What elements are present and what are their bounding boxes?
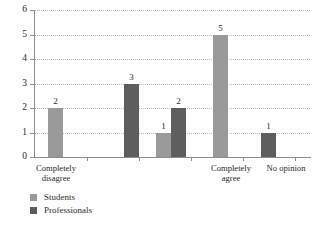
y-axis-line bbox=[34, 10, 35, 158]
legend-swatch-students-icon bbox=[30, 194, 37, 201]
bar-students-5: 5 bbox=[213, 35, 228, 158]
x-axis-label-completely-disagree: Completely disagree bbox=[18, 163, 94, 183]
x-axis-label-no-opinion: No opinion bbox=[258, 163, 314, 173]
gridline bbox=[34, 84, 310, 85]
y-axis-tick-label: 1 bbox=[22, 128, 27, 138]
legend-item-students: Students bbox=[30, 191, 92, 204]
gridline bbox=[34, 35, 310, 36]
bar-students-1: 1 bbox=[156, 133, 171, 158]
y-axis-tick-label: 4 bbox=[22, 54, 27, 64]
gridline bbox=[34, 10, 310, 11]
chart-legend: Students Professionals bbox=[30, 191, 92, 217]
x-axis-label-completely-agree: Completely agree bbox=[200, 163, 262, 183]
y-axis-tick-label: 3 bbox=[22, 79, 27, 89]
bar-value-label: 1 bbox=[161, 122, 166, 131]
bar-value-label: 2 bbox=[176, 97, 181, 106]
y-axis-tick-label: 6 bbox=[22, 5, 27, 15]
plot-area: 0123456 231251 bbox=[34, 10, 310, 157]
bar-professionals-3: 3 bbox=[124, 84, 139, 158]
bar-value-label: 5 bbox=[218, 24, 223, 33]
bar-professionals-2: 2 bbox=[171, 108, 186, 157]
legend-label-professionals: Professionals bbox=[44, 206, 92, 215]
legend-label-students: Students bbox=[44, 193, 75, 202]
bar-students-2: 2 bbox=[48, 108, 63, 157]
gridline bbox=[34, 59, 310, 60]
y-axis-tick-label: 2 bbox=[22, 103, 27, 113]
legend-swatch-professionals-icon bbox=[30, 207, 37, 214]
x-axis-line bbox=[34, 157, 311, 158]
y-axis-tick-label: 5 bbox=[22, 30, 27, 40]
bar-professionals-1: 1 bbox=[261, 133, 276, 158]
bar-value-label: 2 bbox=[53, 97, 58, 106]
bar-chart: 0123456 231251 Completely disagree Compl… bbox=[0, 0, 315, 225]
legend-item-professionals: Professionals bbox=[30, 204, 92, 217]
bar-value-label: 1 bbox=[266, 122, 271, 131]
y-axis-tick-label: 0 bbox=[22, 152, 27, 162]
bar-value-label: 3 bbox=[129, 73, 134, 82]
